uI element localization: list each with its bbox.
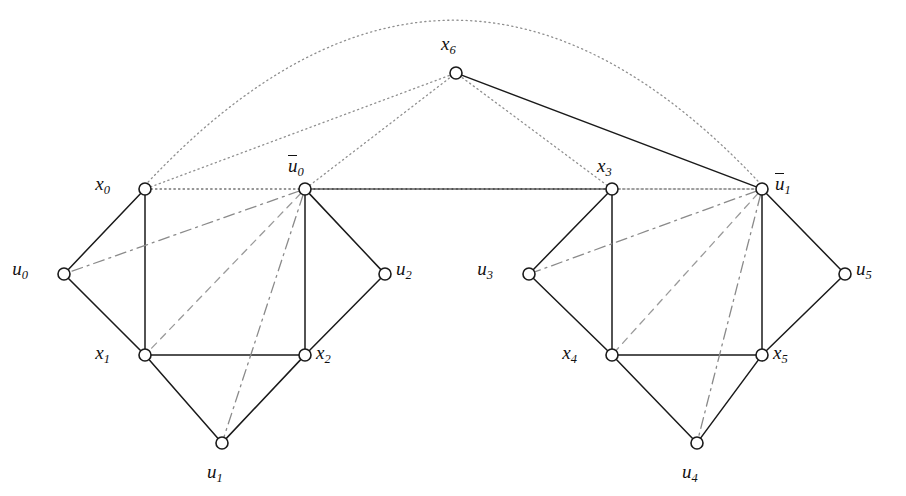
node-label-x6: x6 [441,34,456,53]
node-label-x4: x4 [562,343,577,362]
graph-edge-x0-u0 [68,193,141,269]
graph-edge-x3-u3 [533,193,608,269]
graph-edge-u0-x1 [68,278,141,351]
graph-node-u5[interactable] [839,268,851,280]
graph-edge-u1b-u4 [698,195,760,437]
node-label-u5: u5 [856,259,872,278]
node-label-u1: u1 [207,462,223,481]
graph-edge-u0b-u1 [224,195,303,438]
graph-svg [0,0,906,496]
graph-node-u3[interactable] [523,268,535,280]
graph-edge-x5-u5 [766,278,840,351]
graph-node-x5[interactable] [756,349,768,361]
graph-node-x1[interactable] [139,349,151,361]
graph-edge-u3-x4 [533,278,607,351]
figure-canvas: x0u0x3u1x6u0u2u3u5x1x2x4x5u1u4 [0,0,906,496]
graph-edge-u2-u0b [309,193,381,269]
node-label-x1: x1 [95,343,110,362]
node-label-u4: u4 [682,462,698,481]
graph-node-u4[interactable] [691,437,703,449]
graph-edge-x2-u2 [309,278,381,350]
node-label-u0: u0 [12,259,28,278]
graph-node-x0[interactable] [139,183,151,195]
graph-node-u2[interactable] [379,268,391,280]
graph-node-u0[interactable] [58,268,70,280]
graph-edge-x3-x6 [461,77,607,186]
graph-node-x2[interactable] [299,349,311,361]
graph-edge-u5-u1b [766,193,841,269]
graph-edge-u0b-x6 [310,77,451,186]
graph-edge-x1-u1 [149,360,218,439]
node-label-u1b: u1 [775,174,791,193]
graph-node-x3[interactable] [606,183,618,195]
node-label-u0b: u0 [288,156,304,175]
graph-edge-x4-u4 [616,359,693,438]
graph-edge-x5-u4 [701,360,759,438]
graph-node-x4[interactable] [606,349,618,361]
graph-node-u0b[interactable] [299,183,311,195]
node-label-x5: x5 [773,343,788,362]
graph-node-u1[interactable] [216,437,228,449]
graph-node-x6[interactable] [450,67,462,79]
graph-edge-x2-u1 [226,359,301,438]
node-label-u3: u3 [477,259,493,278]
node-label-u2: u2 [396,259,412,278]
edge-layer [68,20,841,438]
node-label-x2: x2 [316,343,331,362]
node-label-x0: x0 [95,174,110,193]
node-label-x3: x3 [597,156,612,175]
graph-node-u1b[interactable] [756,183,768,195]
